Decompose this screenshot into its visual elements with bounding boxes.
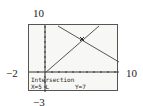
xmin-label: −2 [6,68,18,79]
x-readout: X=5 L [31,84,49,90]
decreasing-line [58,26,119,62]
ymin-label: −3 [33,97,45,106]
y-readout: Y=7 [75,84,86,90]
increasing-line [45,26,99,73]
ymax-label: 10 [33,8,44,19]
calculator-graph-screen: Intersection X=5 L Y=7 [28,24,118,91]
xmax-label: 10 [126,68,137,79]
